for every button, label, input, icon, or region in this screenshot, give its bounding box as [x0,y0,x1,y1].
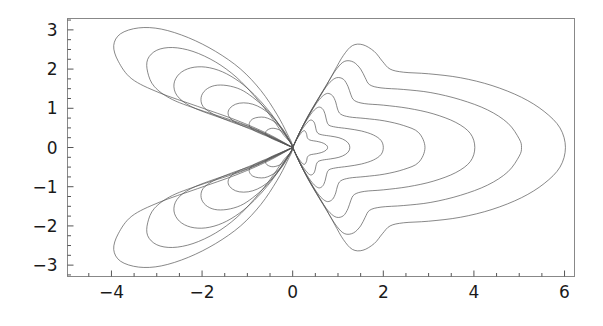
x-axis-tick-label: −2 [190,282,215,302]
y-axis-tick-label: −3 [32,255,57,275]
plot-canvas: −4−20246−3−2−10123 [0,0,603,326]
y-axis-tick-label: 1 [47,98,58,118]
y-axis-tick-label: −1 [32,177,57,197]
x-axis-tick-label: 4 [469,282,480,302]
y-axis-tick-label: −2 [32,216,57,236]
x-axis-tick-label: 0 [287,282,298,302]
figure-background [0,0,603,326]
x-axis-tick-label: 2 [378,282,389,302]
contour-plot-figure: −4−20246−3−2−10123 [0,0,603,326]
y-axis-tick-label: 3 [47,20,58,40]
y-axis-tick-label: 0 [47,138,58,158]
y-axis-tick-label: 2 [47,59,58,79]
x-axis-tick-label: −4 [99,282,124,302]
x-axis-tick-label: 6 [559,282,570,302]
